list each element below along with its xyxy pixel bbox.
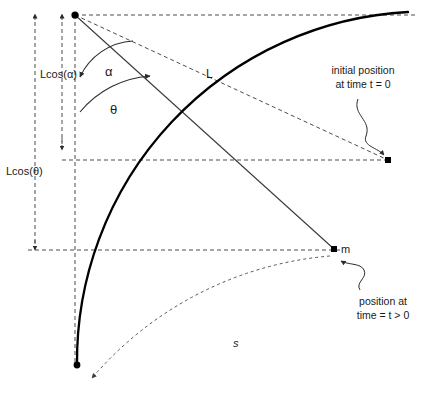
current-position-annotation-line1: position at	[359, 295, 407, 307]
lcos-alpha-label: Lcos(α)	[40, 68, 77, 80]
arc-length-s-path	[92, 256, 330, 378]
current-position-leader	[341, 261, 365, 290]
mass-m-label: m	[341, 243, 350, 255]
rest-position-point	[74, 362, 81, 369]
initial-position-annotation-line2: at time t = 0	[335, 78, 390, 90]
current-position-annotation-line2: time = t > 0	[357, 309, 410, 321]
pivot-point	[71, 11, 78, 18]
length-L-label: L	[206, 67, 213, 81]
current-position-point	[331, 246, 337, 252]
pendulum-diagram: Lcos(α) Lcos(θ) α θ L m s initial positi…	[0, 0, 426, 396]
pendulum-diagram-canvas: Lcos(α) Lcos(θ) α θ L m s initial positi…	[0, 0, 426, 396]
angle-alpha-label: α	[105, 64, 113, 79]
rod-current-position	[75, 15, 334, 249]
initial-position-leader	[357, 99, 384, 155]
arc-length-label: s	[233, 337, 239, 349]
initial-position-point	[385, 157, 391, 163]
angle-theta-label: θ	[110, 102, 117, 117]
lcos-theta-label: Lcos(θ)	[6, 165, 43, 177]
initial-position-annotation-line1: initial position	[331, 64, 394, 76]
